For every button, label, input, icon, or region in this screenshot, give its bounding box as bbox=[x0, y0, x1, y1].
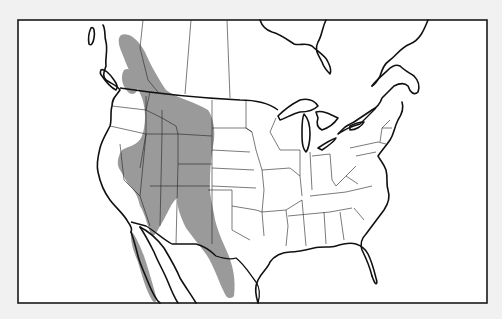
range-map bbox=[0, 0, 502, 319]
map-frame bbox=[18, 20, 487, 303]
